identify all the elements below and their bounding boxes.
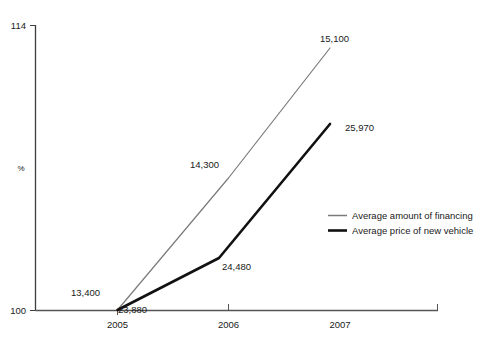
data-label-vehicle-2006: 24,480 xyxy=(222,261,251,272)
legend-label-average-amount-of-financing: Average amount of financing xyxy=(352,210,473,221)
legend-label-average-price-of-new-vehicle: Average price of new vehicle xyxy=(352,225,473,236)
series-line-average-price-of-new-vehicle xyxy=(118,124,331,310)
x-axis-label-2006: 2006 xyxy=(218,319,239,330)
line-chart: 114 100 % 2005 2006 2007 13,400 14,300 1… xyxy=(0,0,480,340)
data-label-vehicle-2007: 25,970 xyxy=(345,122,374,133)
chart-page: 114 100 % 2005 2006 2007 13,400 14,300 1… xyxy=(0,0,480,340)
chart-legend: Average amount of financing Average pric… xyxy=(328,210,473,236)
x-axis-label-2007: 2007 xyxy=(329,319,350,330)
data-label-financing-2007: 15,100 xyxy=(320,33,349,44)
data-label-vehicle-2005: 23,880 xyxy=(118,304,147,315)
y-axis-bottom-label: 100 xyxy=(10,305,26,316)
x-axis-label-2005: 2005 xyxy=(107,319,128,330)
y-axis-top-label: 114 xyxy=(11,20,26,31)
data-label-financing-2005: 13,400 xyxy=(71,287,100,298)
y-axis-title: % xyxy=(17,164,24,173)
data-label-financing-2006: 14,300 xyxy=(190,159,219,170)
